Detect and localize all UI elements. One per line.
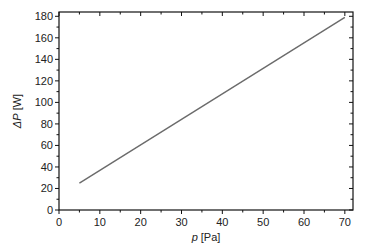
x-axis-label: p [Pa] bbox=[191, 231, 221, 243]
x-tick-label: 40 bbox=[216, 216, 228, 228]
data-line bbox=[79, 17, 344, 183]
y-axis-label: ΔP [W] bbox=[11, 94, 23, 129]
line-chart: 010203040506070020406080100120140160180 … bbox=[0, 0, 372, 252]
y-tick-label: 160 bbox=[35, 32, 53, 44]
y-tick-label: 0 bbox=[47, 204, 53, 216]
y-tick-label: 20 bbox=[41, 182, 53, 194]
y-tick-label: 60 bbox=[41, 139, 53, 151]
plot-area: 010203040506070020406080100120140160180 bbox=[35, 10, 353, 228]
axes-frame bbox=[59, 12, 353, 210]
y-tick-label: 80 bbox=[41, 118, 53, 130]
y-tick-label: 180 bbox=[35, 10, 53, 22]
y-tick-label: 140 bbox=[35, 53, 53, 65]
x-tick-label: 20 bbox=[135, 216, 147, 228]
x-tick-label: 70 bbox=[339, 216, 351, 228]
y-tick-label: 100 bbox=[35, 96, 53, 108]
x-tick-label: 0 bbox=[56, 216, 62, 228]
x-tick-label: 10 bbox=[94, 216, 106, 228]
y-tick-label: 40 bbox=[41, 161, 53, 173]
x-tick-label: 60 bbox=[298, 216, 310, 228]
y-tick-label: 120 bbox=[35, 75, 53, 87]
x-tick-label: 50 bbox=[257, 216, 269, 228]
x-tick-label: 30 bbox=[175, 216, 187, 228]
